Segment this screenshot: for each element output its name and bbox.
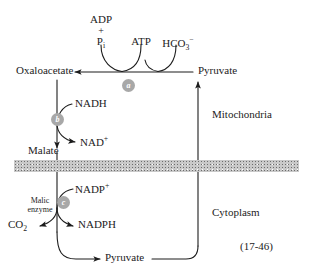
label-nadh: NADH [75, 98, 107, 110]
label-inorganic-phosphate: Pi [97, 36, 105, 50]
label-atp: ATP [131, 36, 151, 48]
arc-nad-out [57, 124, 75, 142]
label-malic-enzyme-line2: enzyme [28, 206, 53, 214]
label-nadp-plus: NADP+ [75, 182, 109, 195]
label-malate: Malate [28, 145, 59, 157]
label-nadph: NADPH [78, 219, 116, 231]
label-oxaloacetate: Oxaloacetate [16, 65, 73, 77]
enzyme-circle-b[interactable]: b [51, 113, 64, 126]
pathway-vector-layer [0, 0, 313, 276]
enzyme-circle-a[interactable]: a [122, 79, 135, 92]
arc-nadph-out [57, 208, 73, 226]
enzyme-circle-c[interactable]: c [57, 196, 70, 209]
arc-atp-out [122, 45, 141, 72]
label-nad-plus: NAD+ [80, 135, 108, 148]
arrow-malate-to-pyruvate [57, 232, 100, 259]
label-bicarbonate: HCO3− [162, 36, 193, 52]
line-pyruvate-to-riser [152, 246, 198, 259]
label-mitochondria: Mitochondria [212, 109, 272, 121]
pathway-diagram: ADP + Pi ATP HCO3− Oxaloacetate Pyruvate… [0, 0, 313, 276]
label-carbon-dioxide: CO2 [8, 219, 27, 233]
label-cytoplasm: Cytoplasm [212, 207, 260, 219]
figure-reference: (17-46) [240, 241, 273, 253]
label-pyruvate-mitochondrial: Pyruvate [198, 65, 237, 77]
label-adp: ADP [90, 14, 112, 26]
label-pyruvate-cytoplasmic: Pyruvate [105, 252, 144, 264]
mitochondrial-membrane [14, 160, 299, 172]
arc-bicarbonate-join [145, 60, 158, 72]
